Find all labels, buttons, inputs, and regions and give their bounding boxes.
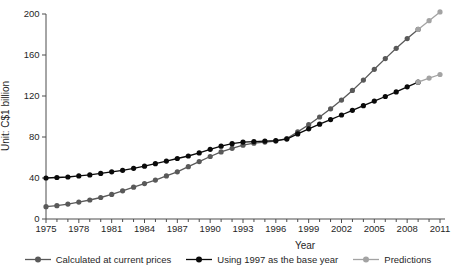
data-point [175,169,180,174]
data-point [54,175,59,180]
data-point [350,108,355,113]
x-tick-label: 1999 [298,223,319,234]
data-point [372,67,377,72]
x-tick-label: 1990 [200,223,221,234]
data-point [186,153,191,158]
data-point [427,18,432,23]
data-point [43,175,48,180]
x-tick-label: 1981 [101,223,122,234]
data-point [98,195,103,200]
series-line [46,29,418,206]
data-point [306,126,311,131]
data-point [76,200,81,205]
series-predictions-1997-base-year-extension- [416,72,443,85]
data-point [164,173,169,178]
data-point [175,156,180,161]
data-point [65,202,70,207]
data-point [383,56,388,61]
data-point [405,36,410,41]
data-point [416,80,421,85]
data-point [427,76,432,81]
data-point [372,99,377,104]
y-tick-label: 120 [24,90,40,101]
data-point [208,147,213,152]
x-tick-label: 1987 [167,223,188,234]
data-point [394,89,399,94]
line-dot-marker-icon [25,255,51,264]
x-tick-label: 2005 [364,223,385,234]
data-point [65,174,70,179]
legend-label-base-year: Using 1997 as the base year [217,254,338,265]
data-point [230,146,235,151]
series-calculated-at-current-prices [43,27,420,209]
figure: Unit: C$1 billion Year 04080120160200197… [0,0,456,278]
data-point [251,139,256,144]
data-point [197,159,202,164]
data-point [295,131,300,136]
data-point [230,141,235,146]
data-point [240,140,245,145]
series-using-1997-as-the-base-year [43,80,420,181]
data-point [131,166,136,171]
data-point [361,78,366,83]
x-tick-label: 1975 [35,223,56,234]
data-point [186,164,191,169]
legend: Calculated at current prices Using 1997 … [0,254,456,265]
data-point [98,171,103,176]
data-point [208,154,213,159]
data-point [109,169,114,174]
data-point [87,172,92,177]
data-point [153,178,158,183]
x-axis-title: Year [295,240,316,251]
data-point [197,150,202,155]
legend-item-current-prices: Calculated at current prices [25,254,172,265]
series-predictions-current-prices-extension- [416,9,443,32]
data-point [328,117,333,122]
x-tick-label: 1978 [68,223,89,234]
data-point [405,84,410,89]
data-point [142,164,147,169]
data-point [273,138,278,143]
x-tick-label: 1996 [265,223,286,234]
line-dot-marker-icon [353,255,379,264]
data-point [219,149,224,154]
data-point [120,188,125,193]
x-tick-label: 2011 [430,223,450,234]
data-point [317,114,322,119]
line-chart: Unit: C$1 billion Year 04080120160200197… [0,0,456,252]
data-point [339,98,344,103]
data-point [437,72,442,77]
data-point [284,137,289,142]
data-point [350,88,355,93]
y-tick-label: 200 [24,8,40,19]
data-point [43,204,48,209]
legend-label-predictions: Predictions [384,254,431,265]
data-point [437,9,442,14]
data-point [339,112,344,117]
legend-item-base-year: Using 1997 as the base year [186,254,338,265]
data-point [394,46,399,51]
data-point [219,144,224,149]
data-point [328,106,333,111]
data-point [164,159,169,164]
legend-item-predictions: Predictions [353,254,431,265]
data-point [109,192,114,197]
data-point [131,185,136,190]
x-tick-label: 2008 [397,223,418,234]
data-point [142,181,147,186]
series-line [46,82,418,178]
data-point [153,161,158,166]
data-point [262,139,267,144]
y-axis-title: Unit: C$1 billion [0,81,11,151]
x-tick-label: 1984 [134,223,155,234]
data-point [416,27,421,32]
data-point [87,197,92,202]
data-point [76,173,81,178]
line-dot-marker-icon [186,255,212,264]
data-point [383,94,388,99]
y-tick-label: 80 [29,131,40,142]
x-tick-label: 1993 [232,223,253,234]
legend-label-current-prices: Calculated at current prices [56,254,172,265]
data-point [120,168,125,173]
axes [46,14,445,219]
